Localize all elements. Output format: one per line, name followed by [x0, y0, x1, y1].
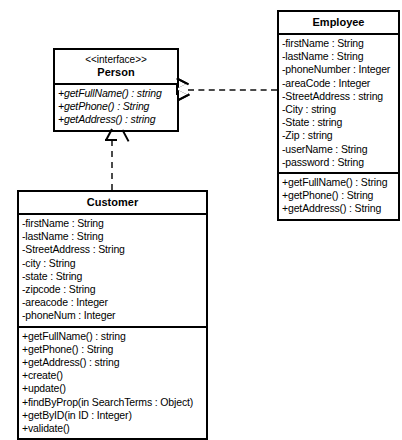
- attributes-compartment-customer: -firstName : String -lastName : String -…: [19, 215, 206, 326]
- attributes-compartment-employee: -firstName : String -lastName : String -…: [279, 35, 398, 172]
- methods-compartment-customer: +getFullName() : string +getPhone() : St…: [19, 326, 206, 439]
- method-item: +getAddress() : String: [279, 202, 398, 215]
- attribute-item: -state : String: [19, 270, 206, 283]
- hollow-triangle-base-icon: [105, 139, 117, 141]
- attribute-item: -lastName : String: [19, 230, 206, 243]
- attribute-item: -State : string: [279, 116, 398, 129]
- attribute-item: -userName : String: [279, 143, 398, 156]
- attribute-item: -firstName : String: [279, 37, 398, 50]
- method-item: +getFullName() : string: [19, 330, 206, 343]
- methods-compartment-person: +getFullName() : string +getPhone() : St…: [55, 85, 177, 130]
- realization-connector-employee-person: [188, 89, 277, 91]
- attribute-item: -lastName : String: [279, 50, 398, 63]
- method-item: +getFullName() : String: [279, 176, 398, 189]
- realization-connector-customer-person: [111, 140, 113, 190]
- attribute-item: -StreetAddress : string: [279, 90, 398, 103]
- hollow-triangle-arrowhead-icon: [176, 83, 188, 95]
- hollow-triangle-base-icon: [176, 83, 178, 95]
- class-name-customer: Customer: [21, 196, 204, 209]
- class-box-employee[interactable]: Employee -firstName : String -lastName :…: [277, 10, 400, 221]
- attribute-item: -zipcode : String: [19, 283, 206, 296]
- class-box-customer[interactable]: Customer -firstName : String -lastName :…: [17, 190, 208, 440]
- attribute-item: -phoneNumber : Integer: [279, 63, 398, 76]
- method-item: +getAddress() : string: [19, 356, 206, 369]
- class-box-person[interactable]: <<interface>> Person +getFullName() : st…: [53, 48, 179, 132]
- method-item: +getPhone() : String: [55, 100, 177, 113]
- class-header-person: <<interface>> Person: [55, 50, 177, 85]
- class-header-employee: Employee: [279, 12, 398, 35]
- methods-compartment-employee: +getFullName() : String +getPhone() : St…: [279, 172, 398, 219]
- attribute-item: -areacode : Integer: [19, 296, 206, 309]
- method-item: +validate(): [19, 422, 206, 435]
- method-item: +getByID(in ID : Integer): [19, 409, 206, 422]
- method-item: +getAddress() : string: [55, 113, 177, 126]
- method-item: +findByProp(in SearchTerms : Object): [19, 396, 206, 409]
- method-item: +getFullName() : string: [55, 87, 177, 100]
- class-header-customer: Customer: [19, 192, 206, 215]
- attribute-item: -areaCode : Integer: [279, 77, 398, 90]
- attribute-item: -StreetAddress : String: [19, 243, 206, 256]
- method-item: +getPhone() : String: [19, 343, 206, 356]
- attribute-item: -city : String: [19, 257, 206, 270]
- class-name-employee: Employee: [281, 16, 396, 29]
- method-item: +create(): [19, 369, 206, 382]
- method-item: +update(): [19, 382, 206, 395]
- method-item: +getPhone() : String: [279, 189, 398, 202]
- attribute-item: -phoneNum : Integer: [19, 309, 206, 322]
- attribute-item: -Zip : string: [279, 129, 398, 142]
- attribute-item: -firstName : String: [19, 217, 206, 230]
- attribute-item: -City : string: [279, 103, 398, 116]
- class-name-person: Person: [57, 66, 175, 79]
- class-stereotype-person: <<interface>>: [57, 54, 175, 66]
- attribute-item: -password : String: [279, 156, 398, 169]
